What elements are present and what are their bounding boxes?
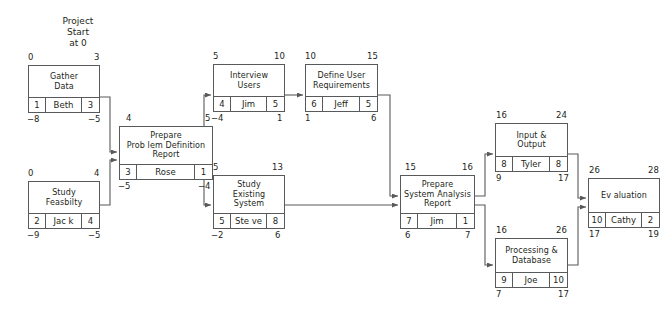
node-prepare-system-analysis-report[interactable]: Prepare System Analysis Report 7 Jim 1	[400, 175, 475, 229]
define-user-requirements-float: 5	[360, 97, 377, 111]
edge-processing-and-database-to-evaluation	[568, 207, 586, 265]
prepare-system-analysis-report-duration: 7	[401, 214, 418, 228]
node-prepare-problem-definition-report[interactable]: Prepare Prob lem Definition Report 3 Ros…	[119, 126, 213, 180]
prepare-problem-definition-report-late-finish: −4	[198, 181, 211, 191]
define-user-requirements-resource: Jeff	[323, 97, 360, 111]
project-start-note: Project Start at 0	[46, 16, 110, 49]
study-feasibility-footer: 2 Jac k 4	[29, 213, 99, 228]
gather-data-early-finish: 3	[94, 52, 99, 62]
define-user-requirements-duration: 6	[306, 97, 323, 111]
study-existing-system-late-start: −2	[211, 230, 224, 240]
define-user-requirements-footer: 6 Jeff 5	[306, 96, 377, 111]
input-and-output-late-finish: 17	[558, 173, 569, 183]
input-and-output-duration: 8	[496, 157, 513, 171]
node-processing-and-database[interactable]: Processing & Database 9 Joe 10	[495, 238, 568, 288]
prepare-problem-definition-report-late-start: −5	[118, 181, 131, 191]
evaluation-late-finish: 19	[648, 229, 659, 239]
edge-study-feasibility-to-prepare-problem-definition-report	[100, 160, 117, 205]
study-feasibility-early-start: 0	[28, 168, 33, 178]
node-interview-users[interactable]: Interview Users 4 Jim 5	[213, 64, 285, 112]
interview-users-late-start: −4	[211, 113, 224, 123]
evaluation-late-start: 17	[589, 229, 600, 239]
prepare-problem-definition-report-float: 1	[195, 165, 212, 179]
study-existing-system-footer: 5 Ste ve 8	[214, 213, 284, 228]
edge-input-and-output-to-evaluation	[568, 154, 586, 198]
interview-users-title: Interview Users	[214, 65, 284, 96]
prepare-problem-definition-report-duration: 3	[120, 165, 137, 179]
study-feasibility-duration: 2	[29, 214, 46, 228]
prepare-system-analysis-report-footer: 7 Jim 1	[401, 213, 474, 228]
study-feasibility-late-start: −9	[27, 230, 40, 240]
evaluation-early-start: 26	[589, 165, 600, 175]
processing-and-database-late-finish: 17	[558, 289, 569, 299]
input-and-output-footer: 8 Tyler 8	[496, 156, 567, 171]
prepare-system-analysis-report-late-start: 6	[405, 230, 410, 240]
study-existing-system-early-start: 5	[213, 162, 218, 172]
prepare-problem-definition-report-resource: Rose	[137, 165, 195, 179]
edge-prepare-system-analysis-report-to-input-and-output	[475, 154, 493, 196]
processing-and-database-resource: Joe	[513, 273, 550, 287]
input-and-output-early-start: 16	[496, 110, 507, 120]
study-feasibility-late-finish: −5	[88, 230, 101, 240]
input-and-output-title: Input & Output	[496, 124, 567, 156]
prepare-problem-definition-report-title: Prepare Prob lem Definition Report	[120, 127, 212, 164]
study-existing-system-title: Study Existing System	[214, 176, 284, 213]
gather-data-resource: Beth	[46, 98, 82, 112]
study-feasibility-early-finish: 4	[94, 168, 99, 178]
edge-define-user-requirements-to-prepare-system-analysis-report	[378, 95, 398, 196]
gather-data-float: 3	[82, 98, 99, 112]
define-user-requirements-late-start: 1	[305, 113, 310, 123]
gather-data-duration: 1	[29, 98, 46, 112]
study-existing-system-float: 8	[267, 214, 284, 228]
define-user-requirements-early-start: 10	[305, 51, 316, 61]
prepare-problem-definition-report-footer: 3 Rose 1	[120, 164, 212, 179]
prepare-problem-definition-report-early-finish: 5	[205, 113, 210, 123]
define-user-requirements-title: Define User Requirements	[306, 65, 377, 96]
prepare-system-analysis-report-early-finish: 16	[462, 162, 473, 172]
node-study-existing-system[interactable]: Study Existing System 5 Ste ve 8	[213, 175, 285, 229]
processing-and-database-early-start: 16	[496, 225, 507, 235]
input-and-output-early-finish: 24	[556, 110, 567, 120]
node-study-feasibility[interactable]: Study Feasbilty 2 Jac k 4	[28, 181, 100, 229]
gather-data-late-finish: −5	[88, 114, 101, 124]
define-user-requirements-late-finish: 6	[371, 113, 376, 123]
node-define-user-requirements[interactable]: Define User Requirements 6 Jeff 5	[305, 64, 378, 112]
edge-prepare-system-analysis-report-to-processing-and-database	[475, 205, 493, 265]
node-evaluation[interactable]: Ev aluation 10 Cathy 2	[588, 178, 660, 228]
interview-users-early-finish: 10	[274, 51, 285, 61]
processing-and-database-late-start: 7	[496, 289, 501, 299]
processing-and-database-footer: 9 Joe 10	[496, 272, 567, 287]
interview-users-early-start: 5	[213, 51, 218, 61]
interview-users-footer: 4 Jim 5	[214, 96, 284, 111]
prepare-system-analysis-report-float: 1	[457, 214, 474, 228]
interview-users-resource: Jim	[231, 97, 267, 111]
evaluation-title: Ev aluation	[589, 179, 659, 212]
study-feasibility-title: Study Feasbilty	[29, 182, 99, 213]
processing-and-database-float: 10	[550, 273, 567, 287]
gather-data-late-start: −8	[27, 114, 40, 124]
evaluation-early-finish: 28	[648, 165, 659, 175]
study-feasibility-resource: Jac k	[46, 214, 82, 228]
study-existing-system-duration: 5	[214, 214, 231, 228]
prepare-system-analysis-report-late-finish: 7	[465, 230, 470, 240]
input-and-output-float: 8	[550, 157, 567, 171]
study-existing-system-resource: Ste ve	[231, 214, 267, 228]
interview-users-late-finish: 1	[277, 113, 282, 123]
interview-users-duration: 4	[214, 97, 231, 111]
processing-and-database-early-finish: 26	[556, 225, 567, 235]
node-gather-data[interactable]: Gather Data 1 Beth 3	[28, 65, 100, 113]
study-existing-system-late-finish: 6	[275, 230, 280, 240]
evaluation-float: 2	[642, 213, 659, 227]
gather-data-footer: 1 Beth 3	[29, 97, 99, 112]
prepare-problem-definition-report-early-start: 4	[126, 113, 131, 123]
evaluation-resource: Cathy	[606, 213, 642, 227]
evaluation-footer: 10 Cathy 2	[589, 212, 659, 227]
input-and-output-resource: Tyler	[513, 157, 550, 171]
evaluation-duration: 10	[589, 213, 606, 227]
prepare-system-analysis-report-resource: Jim	[418, 214, 457, 228]
edge-gather-data-to-prepare-problem-definition-report	[100, 97, 117, 152]
processing-and-database-title: Processing & Database	[496, 239, 567, 272]
input-and-output-late-start: 9	[496, 173, 501, 183]
node-input-and-output[interactable]: Input & Output 8 Tyler 8	[495, 123, 568, 172]
processing-and-database-duration: 9	[496, 273, 513, 287]
